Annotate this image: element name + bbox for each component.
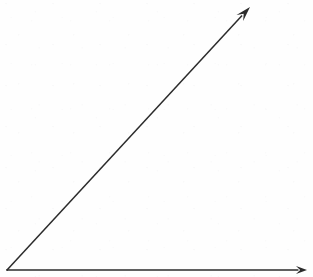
angle-diagram-canvas <box>0 0 313 277</box>
diagonal-ray-line <box>7 16 242 270</box>
angle-vertex-point <box>6 269 8 271</box>
angle-diagram-svg <box>0 0 313 277</box>
